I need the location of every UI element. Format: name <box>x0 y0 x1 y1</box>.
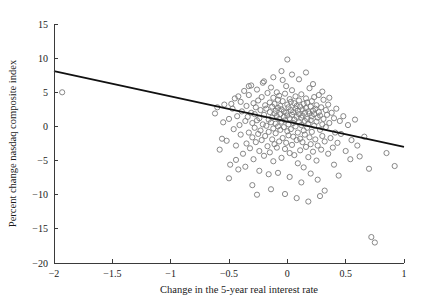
scatter-point <box>337 118 342 123</box>
scatter-point <box>268 187 273 192</box>
scatter-point <box>212 111 217 116</box>
scatter-point <box>309 129 314 134</box>
scatter-point <box>282 146 287 151</box>
scatter-point <box>320 122 325 127</box>
scatter-point <box>246 130 251 135</box>
x-tick-label: −0.5 <box>220 268 238 279</box>
scatter-point <box>238 132 243 137</box>
scatter-point <box>265 144 270 149</box>
scatter-point <box>275 170 280 175</box>
scatter-point <box>329 110 334 115</box>
y-tick-label: −5 <box>37 155 48 166</box>
scatter-point <box>327 120 332 125</box>
scatter-point <box>279 155 284 160</box>
x-axis-title: Change in the 5-year real interest rate <box>160 284 318 295</box>
scatter-point <box>328 135 333 140</box>
y-tick-label: 5 <box>43 87 48 98</box>
scatter-point <box>295 161 300 166</box>
scatter-point <box>343 148 348 153</box>
scatter-point <box>253 140 258 145</box>
scatter-point <box>258 107 263 112</box>
x-tick-label: 0 <box>285 268 290 279</box>
scatter-point <box>221 120 226 125</box>
y-axis-title: Percent change nasdaq composite index <box>7 59 18 227</box>
scatter-point <box>307 135 312 140</box>
scatter-point <box>349 137 354 142</box>
scatter-point <box>252 125 257 130</box>
scatter-point <box>287 174 292 179</box>
scatter-point <box>251 157 256 162</box>
scatter-point <box>280 135 285 140</box>
chart-canvas: −20−15−10−5051015−2−1.5−1−0.500.51 Chang… <box>0 0 422 307</box>
y-tick-label: −15 <box>32 223 48 234</box>
scatter-point <box>366 166 371 171</box>
scatter-point <box>306 199 311 204</box>
scatter-point <box>280 99 285 104</box>
scatter-point <box>246 92 251 97</box>
tick-labels-layer: −20−15−10−5051015−2−1.5−1−0.500.51 <box>32 19 406 280</box>
scatter-point <box>296 77 301 82</box>
scatter-point <box>310 81 315 86</box>
scatter-point <box>282 91 287 96</box>
axis-spines <box>54 24 404 263</box>
scatter-point <box>242 88 247 93</box>
scatter-point <box>336 173 341 178</box>
x-tick-label: 1 <box>402 268 407 279</box>
y-tick-label: 10 <box>38 53 48 64</box>
x-tick-label: −1.5 <box>103 268 121 279</box>
regression-line <box>54 71 404 147</box>
scatter-point <box>237 122 242 127</box>
scatter-point <box>299 92 304 97</box>
scatter-point <box>261 79 266 84</box>
scatter-point <box>268 85 273 90</box>
scatter-point <box>219 136 224 141</box>
scatter-point <box>257 168 262 173</box>
scatter-point <box>238 99 243 104</box>
scatter-point <box>299 180 304 185</box>
scatter-point <box>284 84 289 89</box>
y-tick-label: −10 <box>32 189 48 200</box>
scatter-point <box>235 114 240 119</box>
scatter-point <box>254 192 259 197</box>
scatter-point <box>279 69 284 74</box>
scatter-point <box>315 177 320 182</box>
scatter-point <box>348 157 353 162</box>
scatter-point <box>244 141 249 146</box>
scatter-point <box>294 196 299 201</box>
scatter-point <box>308 171 313 176</box>
scatter-point <box>320 89 325 94</box>
scatter-point <box>250 183 255 188</box>
scatter-point <box>217 147 222 152</box>
scatter-point <box>222 102 227 107</box>
scatter-point <box>244 103 249 108</box>
scatter-point <box>265 90 270 95</box>
scatter-point <box>298 148 303 153</box>
scatter-point <box>352 117 357 122</box>
scatter-point <box>233 143 238 148</box>
scatter-point <box>250 135 255 140</box>
scatter-point <box>330 145 335 150</box>
y-tick-label: 15 <box>38 19 48 30</box>
scatter-point <box>266 172 271 177</box>
scatter-point <box>271 159 276 164</box>
scatter-point <box>303 70 308 75</box>
scatter-point <box>233 157 238 162</box>
scatter-point <box>313 137 318 142</box>
x-tick-label: −2 <box>49 268 60 279</box>
scatter-point <box>273 131 278 136</box>
scatter-point <box>289 72 294 77</box>
y-tick-label: −20 <box>32 258 48 269</box>
scatter-point <box>341 114 346 119</box>
scatter-point <box>229 101 234 106</box>
scatter-point <box>259 94 264 99</box>
scatter-point <box>257 148 262 153</box>
scatter-point <box>60 90 65 95</box>
scatter-point <box>267 150 272 155</box>
scatter-point <box>331 162 336 167</box>
scatter-point <box>320 133 325 138</box>
axes-layer <box>54 24 404 263</box>
scatter-point <box>326 151 331 156</box>
scatter-point <box>289 142 294 147</box>
scatter-plot-figure: −20−15−10−5051015−2−1.5−1−0.500.51 Chang… <box>0 0 422 307</box>
scatter-point <box>308 142 313 147</box>
